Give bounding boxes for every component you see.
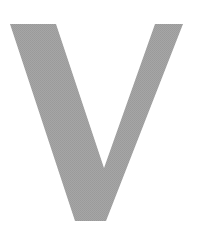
letter-v-glyph xyxy=(0,0,206,251)
glyph-canvas: V xyxy=(0,0,206,251)
letter-v-shape xyxy=(10,24,183,221)
